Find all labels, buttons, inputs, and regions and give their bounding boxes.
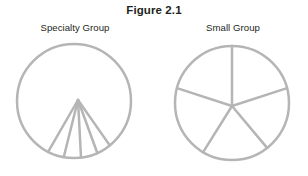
specialty-group-circle <box>17 44 131 158</box>
specialty-group-ray-1 <box>78 100 110 145</box>
small-group-diagram <box>175 46 289 160</box>
small-group-ray-3 <box>232 106 267 148</box>
specialty-group-diagram <box>17 44 131 158</box>
small-group-ray-5 <box>177 88 232 106</box>
figure-container: Figure 2.1 Specialty Group Small Group <box>0 0 308 176</box>
diagram-canvas <box>0 0 308 176</box>
specialty-group-radii <box>48 100 110 158</box>
specialty-group-ray-4 <box>64 100 78 157</box>
specialty-group-ray-5 <box>48 100 78 152</box>
small-group-ray-4 <box>203 106 232 152</box>
small-group-ray-2 <box>232 88 287 106</box>
